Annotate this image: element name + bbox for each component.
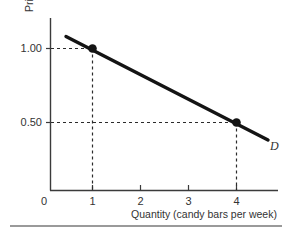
data-point-q4-p050[interactable] bbox=[232, 118, 241, 127]
y-axis-title: Price ($) bbox=[23, 0, 35, 12]
x-tick-marks bbox=[93, 185, 237, 191]
demand-curve-label: D bbox=[269, 139, 279, 153]
y-tick-label-1-00: 1.00 bbox=[21, 42, 42, 54]
x-tick-label-0: 0 bbox=[41, 195, 47, 207]
y-tick-label-0-50: 0.50 bbox=[21, 116, 42, 128]
axes-group bbox=[50, 18, 278, 191]
chart-canvas: 1.00 0.50 0 1 2 3 4 Price ($) Quantity (… bbox=[0, 0, 292, 237]
x-tick-label-3: 3 bbox=[185, 195, 191, 207]
demand-curve-figure: 1.00 0.50 0 1 2 3 4 Price ($) Quantity (… bbox=[0, 0, 292, 237]
data-point-q1-p100[interactable] bbox=[88, 44, 97, 53]
x-axis-title: Quantity (candy bars per week) bbox=[131, 208, 277, 220]
x-tick-label-2: 2 bbox=[137, 195, 143, 207]
guide-lines-group bbox=[51, 49, 237, 191]
x-tick-label-1: 1 bbox=[89, 195, 95, 207]
x-tick-label-4: 4 bbox=[233, 195, 239, 207]
